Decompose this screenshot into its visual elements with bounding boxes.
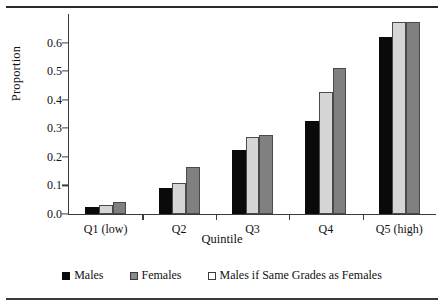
y-tick-mark bbox=[62, 213, 68, 214]
legend-label: Males if Same Grades as Females bbox=[220, 268, 382, 283]
legend-item: Females bbox=[130, 268, 182, 283]
x-tick-mark bbox=[142, 215, 143, 220]
bar bbox=[259, 135, 273, 214]
y-tick-mark bbox=[62, 128, 68, 129]
bottom-divider bbox=[6, 298, 438, 300]
bar bbox=[392, 22, 406, 214]
bar bbox=[246, 137, 260, 214]
bar-group bbox=[379, 14, 420, 214]
y-tick-label: 0.5 bbox=[47, 64, 62, 79]
bar bbox=[99, 205, 113, 214]
y-tick-label: 0.2 bbox=[47, 149, 62, 164]
x-axis-label: Quintile bbox=[0, 232, 444, 247]
x-tick-mark bbox=[363, 215, 364, 220]
y-tick-label: 0.3 bbox=[47, 121, 62, 136]
legend-item: Males bbox=[62, 268, 103, 283]
x-tick-mark bbox=[216, 215, 217, 220]
bar-group bbox=[232, 14, 273, 214]
y-tick-label: 0.0 bbox=[47, 207, 62, 222]
bar-group bbox=[159, 14, 200, 214]
bar bbox=[113, 202, 127, 214]
top-divider bbox=[6, 6, 438, 8]
bar bbox=[406, 22, 420, 214]
legend-swatch-icon bbox=[208, 272, 216, 280]
figure: Proportion 0.00.10.20.30.40.50.6 Q1 (low… bbox=[0, 0, 444, 307]
bar bbox=[159, 188, 173, 214]
x-axis-line bbox=[68, 214, 436, 215]
legend-item: Males if Same Grades as Females bbox=[208, 268, 382, 283]
y-tick-label: 0.6 bbox=[47, 35, 62, 50]
y-tick-mark bbox=[62, 99, 68, 100]
bar bbox=[186, 167, 200, 214]
bar-group bbox=[305, 14, 346, 214]
bar bbox=[333, 68, 347, 214]
legend-swatch-icon bbox=[130, 272, 138, 280]
y-tick-mark bbox=[62, 185, 68, 186]
y-axis-label: Proportion bbox=[9, 14, 24, 134]
plot-area: Proportion 0.00.10.20.30.40.50.6 Q1 (low… bbox=[0, 14, 444, 230]
y-tick-mark bbox=[62, 42, 68, 43]
bar-group bbox=[85, 14, 126, 214]
bar bbox=[172, 183, 186, 214]
bar bbox=[379, 37, 393, 214]
legend-swatch-icon bbox=[62, 272, 70, 280]
y-tick-mark bbox=[62, 71, 68, 72]
y-tick-label: 0.1 bbox=[47, 178, 62, 193]
legend: MalesFemalesMales if Same Grades as Fema… bbox=[0, 268, 444, 283]
y-tick-mark bbox=[62, 156, 68, 157]
bar bbox=[319, 92, 333, 214]
x-tick-mark bbox=[289, 215, 290, 220]
bar bbox=[305, 121, 319, 214]
legend-label: Males bbox=[74, 268, 103, 283]
legend-label: Females bbox=[142, 268, 182, 283]
y-axis-tick-labels: 0.00.10.20.30.40.50.6 bbox=[30, 14, 62, 214]
bars-container bbox=[69, 14, 436, 214]
bar bbox=[232, 150, 246, 214]
bar bbox=[85, 207, 99, 214]
y-tick-label: 0.4 bbox=[47, 92, 62, 107]
